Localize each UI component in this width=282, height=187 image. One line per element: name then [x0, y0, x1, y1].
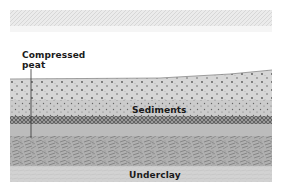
underclay-label: Underclay [129, 170, 181, 180]
geological-cross-section: Compressed peat Sediments Underclay [0, 0, 282, 187]
sediments-label: Sediments [132, 105, 187, 115]
cross-section-graphic [0, 0, 282, 187]
peat-mass-layer [10, 136, 272, 166]
compressed-label-line: Compressed [22, 50, 85, 60]
compressed-peat-band [10, 116, 272, 124]
peat-transition-layer [10, 124, 272, 136]
peat-label-line: peat [22, 60, 85, 70]
top-band-layer [10, 10, 272, 26]
sediments-upper-layer [10, 70, 272, 100]
compressed-peat-label: Compressed peat [22, 50, 85, 70]
